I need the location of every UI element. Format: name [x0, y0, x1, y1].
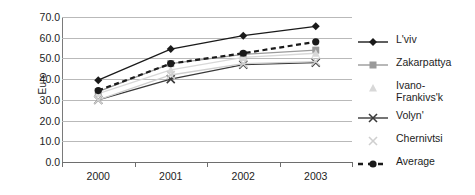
x-tick-mark	[352, 162, 353, 167]
y-tick-label: 60.0	[16, 33, 60, 44]
data-point-circle	[95, 87, 102, 94]
data-point-circle	[167, 60, 174, 67]
x-axis-tick-labels: 2000200120022003	[62, 170, 353, 190]
series-l-viv	[94, 22, 320, 84]
series-average	[95, 38, 320, 94]
legend-item[interactable]: Volyn'	[356, 110, 475, 133]
y-tick-label: 0.0	[16, 157, 60, 168]
x-tick-label: 2002	[213, 170, 273, 182]
legend-marker-cross-icon	[356, 110, 390, 126]
legend-marker-diamond-icon	[356, 34, 390, 50]
data-point-diamond	[312, 22, 320, 30]
legend-item[interactable]: Average	[356, 156, 475, 179]
y-tick-label: 50.0	[16, 53, 60, 64]
series-line	[98, 63, 316, 100]
legend-marker-square-icon	[356, 57, 390, 73]
x-tick-mark	[62, 162, 63, 167]
legend-item[interactable]: L'viv	[356, 34, 475, 57]
y-tick-label: 20.0	[16, 116, 60, 127]
series-volyn	[94, 59, 320, 104]
legend-marker-star-icon	[356, 133, 390, 149]
x-tick-label: 2003	[286, 170, 346, 182]
data-point-diamond	[369, 38, 377, 46]
data-point-star	[369, 137, 377, 145]
legend-label: Zakarpattya	[396, 57, 451, 69]
legend-item[interactable]: Ivano- Frankivs'k	[356, 80, 475, 110]
legend-label: Chernivtsi	[396, 133, 443, 145]
y-axis-tick-labels: 70.060.050.040.030.020.010.00.0	[14, 0, 60, 195]
data-point-circle	[312, 38, 319, 45]
series-line	[98, 62, 316, 100]
line-chart: Euro 70.060.050.040.030.020.010.00.0 200…	[0, 0, 475, 195]
legend-label: L'viv	[396, 34, 417, 46]
legend-item[interactable]: Zakarpattya	[356, 57, 475, 80]
x-tick-mark	[135, 162, 136, 167]
x-tick-label: 2000	[68, 170, 128, 182]
series-line	[98, 50, 316, 91]
data-point-circle	[240, 50, 247, 57]
legend-item[interactable]: Chernivtsi	[356, 133, 475, 156]
series-layer	[62, 17, 352, 162]
series-zakarpattya	[95, 47, 320, 95]
y-tick-label: 30.0	[16, 95, 60, 106]
data-point-square	[370, 62, 377, 69]
plot-area	[62, 17, 352, 162]
data-point-diamond	[94, 76, 102, 84]
y-tick-label: 40.0	[16, 74, 60, 85]
data-point-triangle	[369, 84, 377, 92]
y-tick-label: 10.0	[16, 136, 60, 147]
x-tick-label: 2001	[141, 170, 201, 182]
data-point-diamond	[239, 32, 247, 40]
legend-label: Volyn'	[396, 110, 424, 122]
legend-marker-circle-icon	[356, 156, 390, 172]
legend-label: Ivano- Frankivs'k	[396, 80, 443, 103]
legend: L'vivZakarpattyaIvano- Frankivs'kVolyn'C…	[356, 34, 475, 184]
y-tick-label: 70.0	[16, 12, 60, 23]
data-point-diamond	[167, 45, 175, 53]
x-tick-mark	[207, 162, 208, 167]
legend-marker-triangle-icon	[356, 80, 390, 96]
x-tick-mark	[280, 162, 281, 167]
data-point-circle	[369, 160, 376, 167]
legend-label: Average	[396, 156, 435, 168]
